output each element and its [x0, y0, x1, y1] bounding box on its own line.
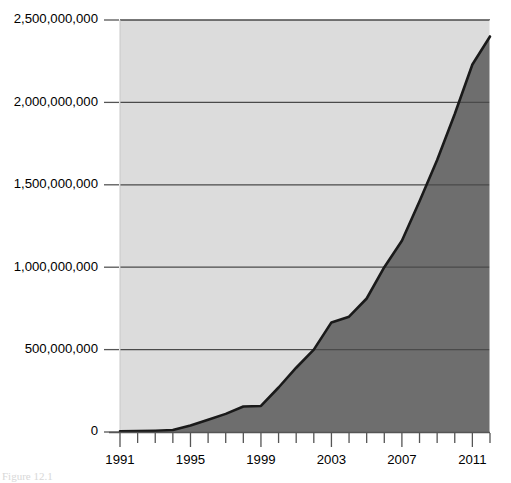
area-chart: 0500,000,0001,000,000,0001,500,000,0002,… [0, 0, 511, 483]
x-tick-label: 1991 [105, 452, 134, 467]
y-tick-label: 2,500,000,000 [14, 11, 98, 26]
y-tick-label: 1,500,000,000 [14, 176, 98, 191]
x-tick-label: 2007 [387, 452, 416, 467]
y-tick-label: 2,000,000,000 [14, 94, 98, 109]
y-tick-label: 500,000,000 [25, 341, 98, 356]
figure-root: 0500,000,0001,000,000,0001,500,000,0002,… [0, 0, 511, 483]
x-tick-label: 1995 [176, 452, 205, 467]
x-tick-label: 2003 [317, 452, 346, 467]
y-tick-label: 0 [91, 423, 98, 438]
y-tick-label: 1,000,000,000 [14, 259, 98, 274]
figure-caption: Figure 12.1 [2, 470, 202, 483]
x-tick-label: 1999 [246, 452, 275, 467]
x-tick-label: 2011 [458, 452, 486, 467]
